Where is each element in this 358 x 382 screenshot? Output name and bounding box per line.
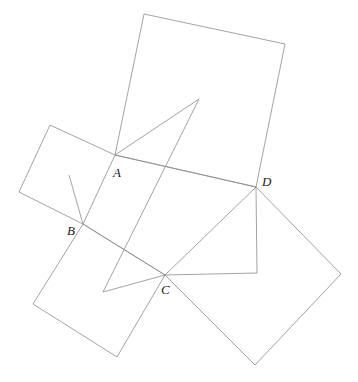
vertex-label-a: A bbox=[113, 166, 121, 179]
triangle-a-apex bbox=[103, 99, 199, 292]
square-bottom-left bbox=[33, 224, 165, 357]
vertex-label-d: D bbox=[262, 175, 271, 188]
segment-a-d bbox=[115, 155, 256, 187]
triangle-b-wedge bbox=[69, 175, 165, 275]
triangles-group bbox=[69, 99, 257, 292]
geometry-figure: A B C D bbox=[0, 0, 358, 382]
square-right bbox=[165, 187, 341, 365]
vertex-label-b: B bbox=[67, 224, 75, 237]
segment-c-base bbox=[103, 275, 165, 292]
vertex-label-c: C bbox=[161, 283, 170, 296]
squares-group bbox=[19, 14, 341, 365]
square-left bbox=[19, 125, 115, 224]
geometry-canvas bbox=[0, 0, 358, 382]
